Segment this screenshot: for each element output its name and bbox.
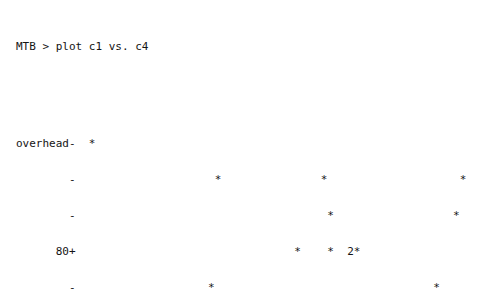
y-tick-label: overhead- xyxy=(16,137,76,150)
plot-row: 80+ * * 2* xyxy=(16,246,477,258)
plot-row: - * * xyxy=(16,210,477,222)
session-window: MTB > plot c1 vs. c4 overhead- * - * * *… xyxy=(0,0,477,292)
plot-row-markers: * * xyxy=(76,281,440,292)
y-tick-label: - xyxy=(16,281,76,292)
y-tick-label: - xyxy=(16,209,76,222)
plot-row: overhead- * xyxy=(16,138,477,150)
plot-row-markers: * * xyxy=(76,209,460,222)
spacer-line xyxy=(16,89,477,101)
plot-console-output: MTB > plot c1 vs. c4 overhead- * - * * *… xyxy=(16,5,477,292)
plot-row: - * * xyxy=(16,282,477,292)
plot-row-markers: * * 2* xyxy=(76,245,361,258)
plot-row: - * * * xyxy=(16,174,477,186)
y-tick-label: - xyxy=(16,173,76,186)
plot-row-markers: * * * xyxy=(76,173,467,186)
y-tick-label: 80+ xyxy=(16,245,76,258)
plot-row-markers: * xyxy=(76,137,96,150)
command-line: MTB > plot c1 vs. c4 xyxy=(16,41,477,53)
